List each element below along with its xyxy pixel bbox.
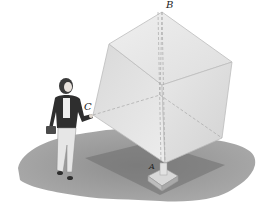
illustration-canvas: [0, 0, 262, 221]
label-vertex-b: B: [166, 0, 173, 10]
label-vertex-c: C: [84, 102, 92, 112]
cube-illustration: B C A: [0, 0, 262, 221]
label-vertex-a: A: [149, 163, 155, 171]
